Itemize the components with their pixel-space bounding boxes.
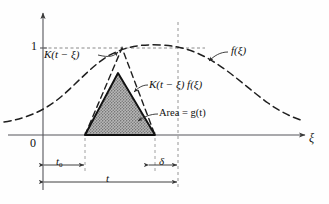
origin-label: 0	[30, 136, 36, 151]
t0-label: t0	[56, 155, 63, 169]
f-xi-leader	[209, 52, 228, 61]
x-axis-label: ξ	[309, 131, 314, 146]
product-label: K(t − ξ) f(ξ)	[149, 78, 202, 90]
t-label: t	[106, 172, 109, 184]
convolution-figure: K(t − ξ) f(ξ) K(t − ξ) f(ξ) Area = g(t) …	[0, 0, 329, 204]
t0-label-subscript: 0	[59, 161, 63, 169]
f-xi-label: f(ξ)	[231, 44, 246, 56]
figure-canvas	[0, 0, 329, 204]
area-label: Area = g(t)	[159, 107, 206, 118]
unit-label: 1	[31, 39, 37, 54]
product-area-shaded	[85, 73, 155, 135]
kernel-label: K(t − ξ)	[44, 48, 79, 60]
delta-label: δ	[159, 155, 164, 167]
